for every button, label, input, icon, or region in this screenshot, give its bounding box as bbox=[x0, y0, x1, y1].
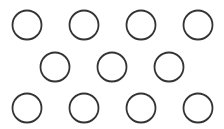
circle-r1-c4 bbox=[184, 11, 213, 40]
circle-r1-c2 bbox=[70, 11, 99, 40]
circle-r2-c3 bbox=[155, 53, 184, 82]
circle-r1-c3 bbox=[127, 11, 156, 40]
circle-grid bbox=[0, 0, 224, 129]
circle-r2-c2 bbox=[98, 53, 127, 82]
circle-r3-c2 bbox=[70, 94, 99, 123]
circle-r3-c3 bbox=[127, 94, 156, 123]
circle-r3-c4 bbox=[184, 94, 213, 123]
circle-r1-c1 bbox=[13, 11, 42, 40]
circle-pattern-diagram bbox=[0, 0, 224, 129]
circle-r3-c1 bbox=[13, 94, 42, 123]
circle-r2-c1 bbox=[41, 53, 70, 82]
